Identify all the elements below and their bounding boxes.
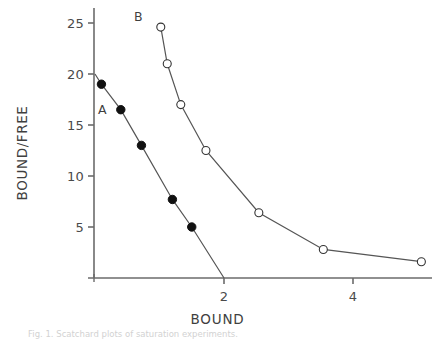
data-point-b xyxy=(163,60,171,68)
y-axis-title: BOUND/FREE xyxy=(14,73,30,233)
y-tick-label: 5 xyxy=(40,220,84,235)
data-point-a xyxy=(188,223,196,231)
data-point-a xyxy=(137,141,145,149)
data-point-a xyxy=(168,195,176,203)
data-point-b xyxy=(177,101,185,109)
data-point-a xyxy=(97,80,105,88)
x-tick-label: 4 xyxy=(349,289,357,304)
x-tick-label: 2 xyxy=(220,289,228,304)
y-tick-label: 20 xyxy=(40,67,84,82)
data-point-b xyxy=(319,245,327,253)
data-point-a xyxy=(117,106,125,114)
data-point-b xyxy=(202,147,210,155)
y-tick-label: 10 xyxy=(40,169,84,184)
series-line-b xyxy=(161,27,422,262)
data-point-b xyxy=(255,209,263,217)
x-axis-title: BOUND xyxy=(0,311,435,327)
figure-caption: Fig. 1. Scatchard plots of saturation ex… xyxy=(28,329,428,339)
y-tick-label: 25 xyxy=(40,16,84,31)
series-group xyxy=(95,23,425,278)
series-label-a: A xyxy=(98,102,107,117)
y-tick-label: 15 xyxy=(40,118,84,133)
series-line-a xyxy=(95,74,224,278)
data-point-b xyxy=(417,258,425,266)
series-label-b: B xyxy=(134,9,143,24)
data-point-b xyxy=(157,23,165,31)
